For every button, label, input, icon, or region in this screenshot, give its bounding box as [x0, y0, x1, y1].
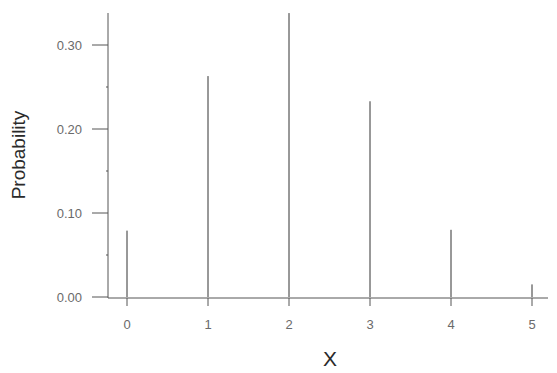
x-tick-label: 0 [123, 317, 130, 332]
x-tick-label: 3 [366, 317, 373, 332]
x-tick-label: 1 [204, 317, 211, 332]
y-tick-label: 0.10 [57, 206, 82, 221]
y-tick-label: 0.30 [57, 38, 82, 53]
x-tick-label: 4 [447, 317, 454, 332]
y-axis: 0.000.100.200.30 [57, 13, 108, 305]
probability-chart: 0.000.100.200.30 012345 Probability X [0, 0, 557, 373]
y-axis-title: Probability [8, 110, 29, 199]
plot-area [127, 13, 532, 297]
x-tick-label: 5 [528, 317, 535, 332]
x-tick-label: 2 [285, 317, 292, 332]
x-axis-title: X [323, 347, 337, 370]
x-axis: 012345 [108, 298, 548, 332]
y-tick-label: 0.20 [57, 122, 82, 137]
y-tick-label: 0.00 [57, 290, 82, 305]
